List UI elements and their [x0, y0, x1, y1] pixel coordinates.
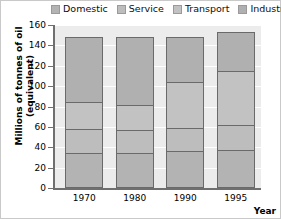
gridline: [53, 25, 261, 26]
legend-item[interactable]: Service: [117, 4, 164, 14]
stacked-bar[interactable]: [166, 37, 204, 188]
legend-item[interactable]: Transport: [173, 4, 230, 14]
stacked-bar[interactable]: [116, 37, 154, 188]
y-axis-line: [53, 25, 55, 190]
y-tick-label: 0: [40, 184, 46, 193]
x-axis-line: [53, 188, 261, 190]
bar-segment[interactable]: [116, 153, 154, 188]
legend-swatch-icon: [117, 5, 126, 14]
x-tick-label: 1980: [123, 194, 146, 203]
legend-item[interactable]: Domestic: [51, 4, 108, 14]
y-tick-label: 100: [29, 82, 46, 91]
legend-label: Domestic: [63, 4, 108, 14]
bar-segment[interactable]: [217, 32, 255, 72]
bar-segment[interactable]: [166, 82, 204, 129]
chart-figure: DomesticServiceTransportIndustry Million…: [0, 0, 281, 219]
x-tick-label: 1970: [73, 194, 96, 203]
y-tick-label: 120: [29, 62, 46, 71]
bar-segment[interactable]: [217, 71, 255, 126]
x-axis-title: Year: [254, 206, 276, 216]
bar-segment[interactable]: [116, 105, 154, 131]
bar-segment[interactable]: [116, 37, 154, 105]
stacked-bar[interactable]: [65, 37, 103, 188]
legend-label: Service: [129, 4, 164, 14]
y-tick-label: 80: [35, 103, 46, 112]
y-tick-label: 60: [35, 123, 46, 132]
bar-segment[interactable]: [217, 150, 255, 188]
legend-swatch-icon: [238, 5, 247, 14]
y-tick-label: 20: [35, 164, 46, 173]
bar-segment[interactable]: [166, 128, 204, 152]
legend-label: Transport: [185, 4, 230, 14]
bar-segment[interactable]: [166, 151, 204, 188]
chart-legend: DomesticServiceTransportIndustry: [51, 4, 281, 14]
y-tick-label: 160: [29, 21, 46, 30]
legend-swatch-icon: [173, 5, 182, 14]
bar-segment[interactable]: [65, 102, 103, 129]
bar-segment[interactable]: [65, 129, 103, 154]
y-tick-label: 40: [35, 143, 46, 152]
bar-segment[interactable]: [166, 37, 204, 83]
legend-item[interactable]: Industry: [238, 4, 281, 14]
bar-segment[interactable]: [217, 125, 255, 151]
legend-label: Industry: [250, 4, 281, 14]
bar-segment[interactable]: [116, 130, 154, 154]
y-tick-label: 140: [29, 41, 46, 50]
stacked-bar[interactable]: [217, 32, 255, 188]
x-tick-label: 1990: [174, 194, 197, 203]
x-tick-label: 1995: [224, 194, 247, 203]
bar-segment[interactable]: [65, 37, 103, 103]
legend-swatch-icon: [51, 5, 60, 14]
bar-segment[interactable]: [65, 153, 103, 188]
plot-area: 020406080100120140160 1970198019901995: [53, 25, 261, 190]
